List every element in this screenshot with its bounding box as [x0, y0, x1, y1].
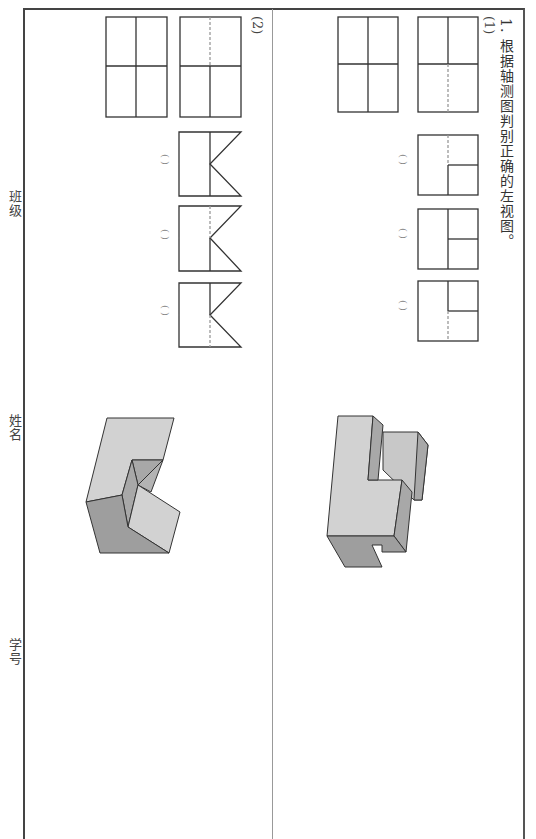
part-2-option-b [179, 206, 241, 271]
part-1-option-c-blank[interactable]: ( ) [398, 300, 409, 311]
part-2-view-b [106, 17, 167, 117]
part-1-option-b-blank[interactable]: ( ) [398, 228, 409, 239]
part-1-view-b [338, 17, 398, 112]
part-2-view-a [180, 17, 241, 117]
part-1-isometric [327, 416, 428, 567]
part-2-isometric [86, 418, 180, 553]
part-2-option-a [179, 132, 241, 196]
part-2-option-c-blank[interactable]: ( ) [160, 305, 171, 316]
part-2-option-c [179, 283, 241, 347]
part-2-option-b-blank[interactable]: ( ) [160, 229, 171, 240]
part-1-option-b [418, 209, 478, 269]
part-1-option-c [418, 281, 478, 341]
part-1-option-a-blank[interactable]: ( ) [398, 154, 409, 165]
part-1-views [0, 0, 536, 839]
part-1-view-a [418, 17, 478, 112]
part-1-option-a [418, 135, 478, 195]
part-2-option-a-blank[interactable]: ( ) [160, 154, 171, 165]
